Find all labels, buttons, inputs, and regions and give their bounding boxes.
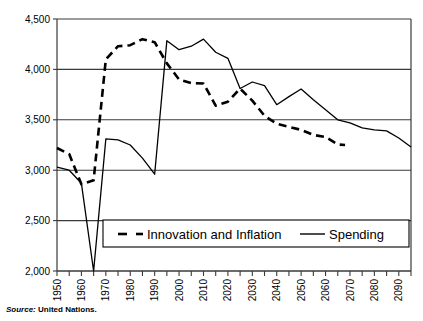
x-tick-label: 2090 <box>393 279 404 302</box>
x-tick-label: 1950 <box>52 279 63 302</box>
x-tick-label: 2080 <box>369 279 380 302</box>
x-tick-label: 2030 <box>247 279 258 302</box>
source-note: Source: United Nations. <box>6 305 97 314</box>
x-tick-label: 1970 <box>100 279 111 302</box>
x-tick-label: 2060 <box>320 279 331 302</box>
y-tick-label: 4,000 <box>25 64 50 75</box>
y-tick-label: 3,500 <box>25 114 50 125</box>
x-axis-tick-labels: 1950196019701980199020002010202020302040… <box>52 279 405 302</box>
source-text: United Nations. <box>36 305 97 314</box>
x-tick-label: 1990 <box>149 279 160 302</box>
y-tick-label: 2,000 <box>25 266 50 277</box>
chart-legend[interactable]: Innovation and InflationSpending <box>103 220 409 247</box>
x-tick-label: 1960 <box>76 279 87 302</box>
legend-label: Spending <box>329 227 384 242</box>
line-chart: 2,0002,5003,0003,5004,0004,500 195019601… <box>0 0 423 321</box>
y-tick-label: 4,500 <box>25 14 50 25</box>
legend-label: Innovation and Inflation <box>147 227 281 242</box>
source-keyword: Source: <box>6 305 36 314</box>
x-tick-label: 1980 <box>125 279 136 302</box>
y-tick-label: 3,000 <box>25 165 50 176</box>
x-tick-label: 2020 <box>222 279 233 302</box>
x-tick-label: 2070 <box>345 279 356 302</box>
x-tick-label: 2000 <box>174 279 185 302</box>
y-tick-label: 2,500 <box>25 215 50 226</box>
x-tick-label: 2010 <box>198 279 209 302</box>
legend-entries[interactable]: Innovation and InflationSpending <box>118 227 384 242</box>
x-tick-label: 2050 <box>296 279 307 302</box>
x-tick-label: 2040 <box>271 279 282 302</box>
